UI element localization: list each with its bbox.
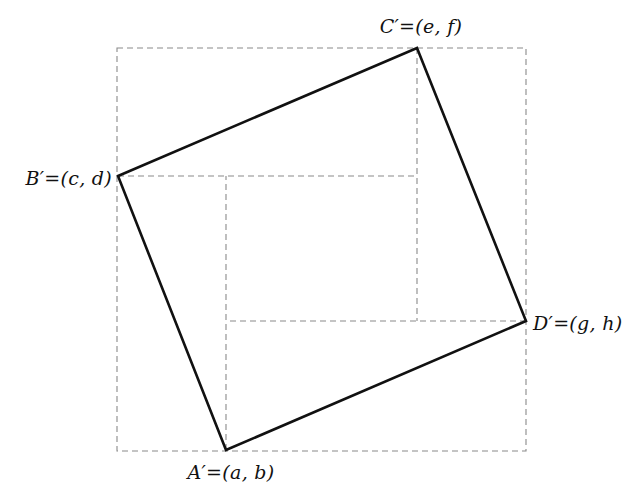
geometry-canvas [0, 0, 637, 500]
bounding-square-dashed [117, 48, 526, 451]
vertex-label-d-prime: D′=(g, h) [533, 314, 622, 333]
geometry-figure: C′=(e, f) B′=(c, d) D′=(g, h) A′=(a, b) [0, 0, 637, 500]
quadrilateral-group [118, 48, 526, 450]
vertex-label-b-prime: B′=(c, d) [25, 169, 112, 188]
quadrilateral-abcd [118, 48, 526, 450]
vertex-label-a-prime: A′=(a, b) [187, 463, 274, 482]
dashed-guides-group [117, 48, 526, 451]
vertex-label-c-prime: C′=(e, f) [380, 17, 463, 36]
